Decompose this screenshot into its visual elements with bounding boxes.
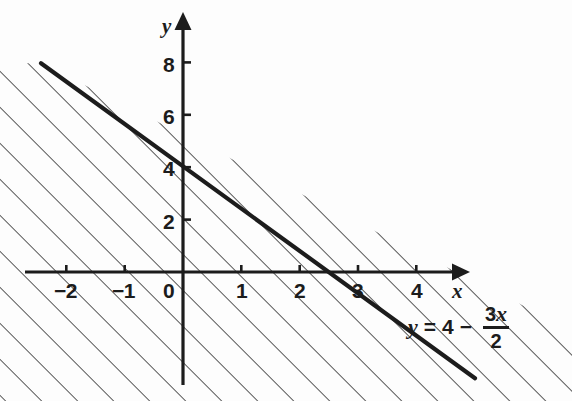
equation-annotation: y = 4 − 3x 2	[408, 303, 509, 351]
equation-constant-term: 4	[442, 316, 454, 337]
x-tick-label-3: 3	[352, 280, 363, 301]
fraction-numerator-variable: x	[496, 301, 507, 326]
x-tick-label-1: 1	[236, 280, 247, 301]
equation-lhs-variable: y	[408, 316, 418, 338]
equation-minus-sign: −	[460, 316, 472, 337]
fraction-denominator: 2	[490, 329, 501, 351]
y-tick-label-6: 6	[163, 106, 174, 127]
equation-fraction: 3x 2	[483, 303, 509, 351]
x-tick-label-0: 0	[163, 280, 174, 301]
x-tick-label-2: 2	[294, 280, 305, 301]
y-tick-label-4: 4	[163, 158, 174, 179]
y-tick-label-2: 2	[163, 211, 174, 232]
x-axis-label: x	[452, 281, 463, 302]
fraction-numerator-coefficient: 3	[485, 303, 496, 325]
fraction-numerator: 3x	[483, 303, 509, 326]
x-tick-label-4: 4	[411, 280, 422, 301]
x-tick-label-minus2: −2	[54, 280, 77, 301]
x-tick-label-minus1: −1	[112, 280, 135, 301]
y-axis-label: y	[162, 16, 171, 37]
y-tick-label-8: 8	[163, 54, 174, 75]
graph-figure: −2 −1 0 1 2 3 4 2 4 6 8 y x y = 4 − 3x 2	[0, 0, 572, 401]
equation-equals-sign: =	[424, 316, 436, 337]
